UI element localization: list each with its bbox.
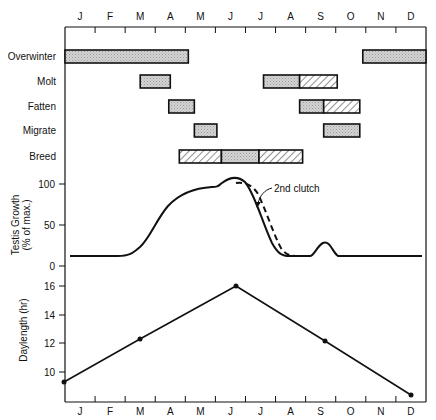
activity-bar-migrate (324, 124, 360, 137)
row-label-fatten: Fatten (28, 101, 56, 112)
month-label-bottom: M (196, 406, 204, 417)
activity-bar-fatten (169, 100, 195, 113)
activity-bar-breed (221, 150, 259, 163)
month-label-bottom: N (377, 406, 384, 417)
month-label-top: S (317, 11, 324, 22)
month-label-top: M (136, 11, 144, 22)
bottom-month-ticks (95, 396, 396, 402)
month-label-top: N (377, 11, 384, 22)
annual-cycle-chart: JFMAMJJASOND JFMAMJJASOND OverwinterMolt… (0, 0, 436, 420)
month-label-top: M (196, 11, 204, 22)
daylength-tick-16: 16 (44, 281, 56, 292)
month-label-top: O (347, 11, 355, 22)
testis-ylabel-line1: Testis Growth (10, 195, 21, 256)
testis-y-axis: 100 50 0 Testis Growth (% of max.) (10, 179, 65, 272)
activity-bar-fatten (300, 100, 324, 113)
top-month-ticks (95, 27, 396, 33)
testis-tick-0: 0 (49, 261, 55, 272)
activity-bar-molt (140, 75, 170, 88)
testis-ylabel-line2: (% of max.) (21, 199, 32, 250)
row-label-overwinter: Overwinter (8, 51, 57, 62)
activity-bar-overwinter (65, 50, 188, 63)
testis-tick-50: 50 (44, 220, 56, 231)
daylength-y-axis: 16 14 12 10 Daylength (hr) (18, 281, 65, 378)
row-label-molt: Molt (37, 76, 56, 87)
testis-growth-curve (70, 178, 422, 256)
activity-bar-migrate (194, 124, 217, 137)
daylength-line (64, 286, 411, 395)
activity-bar-molt (300, 75, 338, 88)
activity-bars (65, 50, 426, 163)
row-label-breed: Breed (29, 151, 56, 162)
plot-frame (65, 27, 426, 402)
daylength-tick-14: 14 (44, 310, 56, 321)
bottom-month-labels: JFMAMJJASOND (78, 406, 415, 417)
testis-tick-100: 100 (38, 179, 55, 190)
month-label-bottom: S (317, 406, 324, 417)
month-label-bottom: A (167, 406, 174, 417)
month-label-top: J (228, 11, 233, 22)
activity-bar-breed (259, 150, 303, 163)
month-label-bottom: J (78, 406, 83, 417)
activity-row-labels: OverwinterMoltFattenMigrateBreed (8, 51, 57, 162)
top-month-labels: JFMAMJJASOND (78, 11, 415, 22)
activity-bar-breed (179, 150, 221, 163)
row-label-migrate: Migrate (23, 125, 57, 136)
month-label-top: J (78, 11, 83, 22)
month-label-top: D (407, 11, 414, 22)
month-label-bottom: M (136, 406, 144, 417)
month-label-bottom: O (347, 406, 355, 417)
month-label-top: A (287, 11, 294, 22)
daylength-ylabel: Daylength (hr) (18, 298, 29, 361)
month-label-bottom: A (287, 406, 294, 417)
month-label-top: J (258, 11, 263, 22)
activity-bar-overwinter (363, 50, 426, 63)
daylength-points (62, 284, 414, 398)
month-label-bottom: D (407, 406, 414, 417)
month-label-bottom: F (107, 406, 113, 417)
month-label-bottom: J (258, 406, 263, 417)
daylength-tick-12: 12 (44, 338, 56, 349)
month-label-top: F (107, 11, 113, 22)
daylength-tick-10: 10 (44, 367, 56, 378)
second-clutch-label: 2nd clutch (274, 183, 320, 194)
activity-bar-fatten (324, 100, 360, 113)
month-label-bottom: J (228, 406, 233, 417)
activity-bar-molt (264, 75, 300, 88)
month-label-top: A (167, 11, 174, 22)
